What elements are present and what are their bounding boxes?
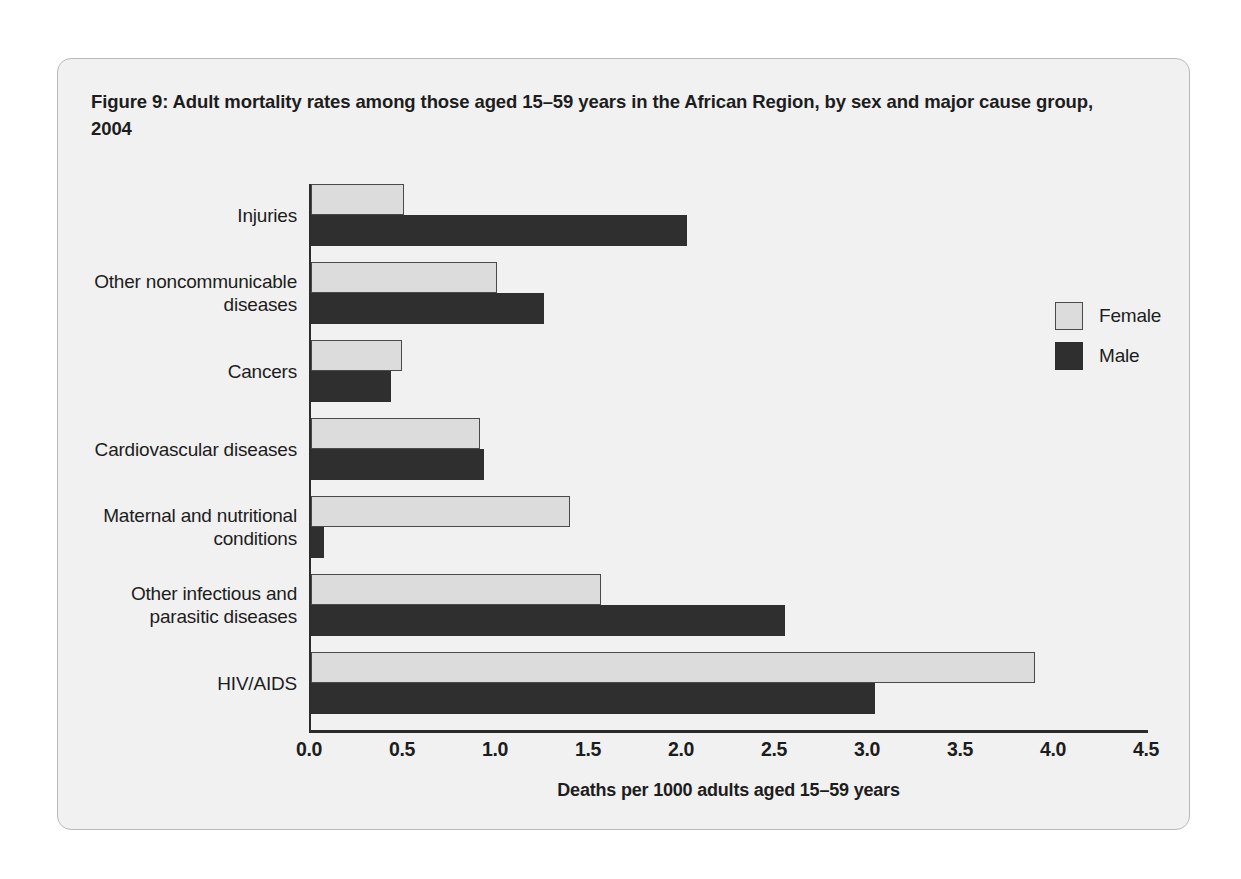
- x-tick-label: 1.0: [460, 738, 530, 761]
- legend-item-male: Male: [1055, 336, 1161, 376]
- bar-female: [311, 574, 601, 605]
- x-tick-label: 4.5: [1111, 738, 1181, 761]
- x-axis-label: Deaths per 1000 adults aged 15–59 years: [309, 780, 1148, 801]
- x-tick-label: 0.0: [274, 738, 344, 761]
- category-label: Other noncommunicable diseases: [0, 270, 297, 316]
- bar-male: [311, 293, 544, 324]
- legend-label-male: Male: [1099, 345, 1139, 367]
- x-tick-label: 2.5: [739, 738, 809, 761]
- category-label: Maternal and nutritional conditions: [0, 504, 297, 550]
- x-tick-label: 3.5: [925, 738, 995, 761]
- bar-male: [311, 215, 687, 246]
- category-label: Injuries: [0, 204, 297, 227]
- category-label: HIV/AIDS: [0, 672, 297, 695]
- figure-panel: Figure 9: Adult mortality rates among th…: [57, 58, 1190, 830]
- bar-female: [311, 418, 480, 449]
- x-tick-label: 4.0: [1018, 738, 1088, 761]
- chart-plot-area: InjuriesOther noncommunicable diseasesCa…: [309, 184, 1146, 730]
- x-tick-label: 3.0: [832, 738, 902, 761]
- category-label: Cardiovascular diseases: [0, 438, 297, 461]
- x-tick-label: 0.5: [367, 738, 437, 761]
- legend-swatch-female-icon: [1055, 302, 1083, 330]
- bar-male: [311, 605, 785, 636]
- legend-label-female: Female: [1099, 305, 1161, 327]
- x-tick-label: 1.5: [553, 738, 623, 761]
- bar-male: [311, 683, 875, 714]
- bar-female: [311, 340, 402, 371]
- legend-item-female: Female: [1055, 296, 1161, 336]
- x-tick-label: 2.0: [646, 738, 716, 761]
- bar-female: [311, 184, 404, 215]
- bar-female: [311, 496, 570, 527]
- figure-title: Figure 9: Adult mortality rates among th…: [91, 89, 1101, 143]
- legend-swatch-male-icon: [1055, 342, 1083, 370]
- bar-male: [311, 449, 484, 480]
- x-axis-line: [309, 730, 1148, 733]
- chart-legend: Female Male: [1055, 296, 1161, 376]
- category-label: Cancers: [0, 360, 297, 383]
- bar-male: [311, 527, 324, 558]
- bar-male: [311, 371, 391, 402]
- bar-female: [311, 262, 497, 293]
- category-label: Other infectious and parasitic diseases: [0, 582, 297, 628]
- bar-female: [311, 652, 1035, 683]
